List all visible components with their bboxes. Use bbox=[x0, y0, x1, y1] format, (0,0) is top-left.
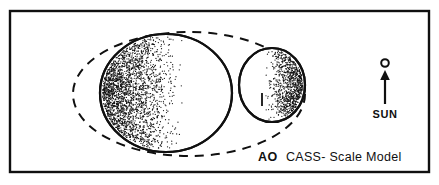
figure-root: SUN AO CASS- Scale Model bbox=[0, 0, 439, 185]
scale-model-diagram: SUN AO CASS- Scale Model bbox=[0, 0, 439, 185]
caption-text: CASS- Scale Model bbox=[286, 150, 402, 164]
sun-label: SUN bbox=[372, 108, 397, 120]
primary-body-group bbox=[100, 34, 232, 152]
secondary-body-group bbox=[239, 48, 305, 122]
caption-prefix: AO bbox=[258, 150, 278, 164]
